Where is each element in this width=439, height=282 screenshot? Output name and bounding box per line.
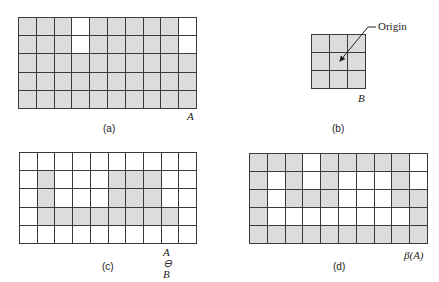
cell-c-r3-c0 [20, 208, 38, 226]
grid-boundary-result [249, 153, 428, 244]
cell-d-r1-c1 [268, 172, 286, 190]
cell-d-r4-c2 [286, 226, 304, 244]
cell-d-r4-c5 [339, 226, 357, 244]
cell-d-r3-c4 [321, 208, 339, 226]
cell-a-r4-c7 [144, 91, 162, 109]
cell-a-r2-c3 [72, 54, 90, 72]
grid-set-a [18, 17, 197, 109]
cell-a-r3-c8 [161, 73, 179, 91]
cell-d-r2-c0 [250, 190, 268, 208]
set-label-c: A ⊖ B [163, 247, 172, 280]
cell-a-r3-c5 [108, 73, 126, 91]
cell-d-r4-c1 [268, 226, 286, 244]
cell-d-r0-c4 [321, 154, 339, 172]
cell-a-r4-c5 [108, 91, 126, 109]
cell-c-r0-c4 [91, 153, 109, 171]
cell-a-r1-c5 [108, 36, 126, 54]
set-label-a: A [187, 111, 194, 122]
cell-d-r1-c5 [339, 172, 357, 190]
cell-c-r2-c1 [38, 189, 56, 207]
cell-c-r0-c2 [55, 153, 73, 171]
cell-c-r3-c9 [179, 208, 197, 226]
cell-a-r2-c8 [161, 54, 179, 72]
cell-d-r2-c1 [268, 190, 286, 208]
cell-b-r0-c0 [312, 35, 330, 53]
cell-c-r0-c9 [179, 153, 197, 171]
cell-d-r1-c9 [410, 172, 428, 190]
cell-c-r1-c7 [144, 171, 162, 189]
cell-b-r2-c1 [330, 71, 348, 89]
cell-c-r2-c6 [126, 189, 144, 207]
cell-a-r1-c8 [161, 36, 179, 54]
cell-d-r0-c7 [375, 154, 393, 172]
cell-c-r4-c6 [126, 226, 144, 244]
cell-d-r3-c6 [357, 208, 375, 226]
cell-c-r0-c6 [126, 153, 144, 171]
cell-a-r0-c1 [37, 18, 55, 36]
cell-d-r0-c0 [250, 154, 268, 172]
cell-a-r1-c7 [144, 36, 162, 54]
cell-d-r0-c8 [392, 154, 410, 172]
cell-a-r4-c9 [179, 91, 197, 109]
cell-b-r0-c1 [330, 35, 348, 53]
cell-c-r0-c3 [73, 153, 91, 171]
cell-b-r1-c2 [348, 53, 366, 71]
caption-d: (d) [333, 262, 345, 272]
cell-a-r1-c2 [55, 36, 73, 54]
cell-c-r1-c3 [73, 171, 91, 189]
cell-d-r2-c8 [392, 190, 410, 208]
cell-a-r2-c5 [108, 54, 126, 72]
cell-d-r1-c3 [303, 172, 321, 190]
cell-a-r3-c7 [144, 73, 162, 91]
cell-a-r0-c8 [161, 18, 179, 36]
cell-a-r4-c0 [19, 91, 37, 109]
cell-d-r0-c3 [303, 154, 321, 172]
cell-d-r3-c3 [303, 208, 321, 226]
cell-c-r2-c7 [144, 189, 162, 207]
cell-c-r0-c1 [38, 153, 56, 171]
cell-a-r2-c1 [37, 54, 55, 72]
cell-c-r1-c9 [179, 171, 197, 189]
cell-d-r4-c0 [250, 226, 268, 244]
cell-a-r3-c4 [90, 73, 108, 91]
cell-a-r2-c4 [90, 54, 108, 72]
cell-c-r1-c0 [20, 171, 38, 189]
cell-d-r4-c6 [357, 226, 375, 244]
cell-d-r4-c8 [392, 226, 410, 244]
cell-d-r1-c7 [375, 172, 393, 190]
cell-d-r2-c4 [321, 190, 339, 208]
cell-d-r2-c6 [357, 190, 375, 208]
cell-a-r0-c7 [144, 18, 162, 36]
cell-c-r1-c2 [55, 171, 73, 189]
cell-d-r0-c2 [286, 154, 304, 172]
cell-c-r2-c4 [91, 189, 109, 207]
set-label-b: B [358, 93, 365, 104]
grid-structuring-element-b [311, 34, 366, 89]
cell-b-r1-c1 [330, 53, 348, 71]
cell-a-r0-c4 [90, 18, 108, 36]
caption-c: (c) [102, 262, 114, 272]
cell-a-r4-c4 [90, 91, 108, 109]
cell-c-r0-c8 [162, 153, 180, 171]
cell-a-r0-c6 [126, 18, 144, 36]
cell-d-r4-c9 [410, 226, 428, 244]
cell-a-r3-c6 [126, 73, 144, 91]
cell-d-r1-c2 [286, 172, 304, 190]
cell-d-r2-c7 [375, 190, 393, 208]
origin-label: Origin [378, 21, 407, 32]
cell-d-r0-c6 [357, 154, 375, 172]
cell-d-r0-c1 [268, 154, 286, 172]
cell-d-r2-c2 [286, 190, 304, 208]
cell-a-r0-c9 [179, 18, 197, 36]
cell-d-r3-c0 [250, 208, 268, 226]
cell-c-r2-c8 [162, 189, 180, 207]
cell-a-r4-c1 [37, 91, 55, 109]
cell-c-r4-c2 [55, 226, 73, 244]
cell-a-r4-c2 [55, 91, 73, 109]
cell-c-r2-c5 [109, 189, 127, 207]
cell-c-r2-c3 [73, 189, 91, 207]
cell-c-r3-c6 [126, 208, 144, 226]
set-label-d: β(A) [404, 250, 424, 261]
cell-d-r1-c0 [250, 172, 268, 190]
cell-c-r4-c8 [162, 226, 180, 244]
